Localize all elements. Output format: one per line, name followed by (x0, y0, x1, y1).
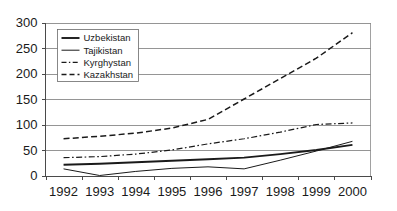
y-tick-marks (42, 24, 46, 177)
x-axis-label: 1996 (194, 184, 223, 199)
legend-label-tajikistan: Tajikistan (84, 45, 123, 56)
x-axis-label: 1998 (266, 184, 295, 199)
y-axis-label: 200 (16, 66, 38, 81)
x-axis-label: 1992 (49, 184, 78, 199)
x-axis-label: 1993 (85, 184, 114, 199)
x-axis-labels: 199219931994199519961997199819992000 (49, 184, 367, 199)
x-axis-label: 1994 (121, 184, 150, 199)
chart-canvas: 050100150200250300 199219931994199519961… (0, 0, 397, 211)
line-chart: 050100150200250300 199219931994199519961… (0, 0, 397, 211)
y-axis-label: 250 (16, 41, 38, 56)
legend-label-kazakhstan: Kazakhstan (84, 69, 134, 80)
series-line-uzbekistan (64, 145, 353, 165)
y-axis-labels: 050100150200250300 (16, 15, 38, 183)
x-axis-label: 1995 (157, 184, 186, 199)
y-axis-label: 0 (30, 168, 37, 183)
legend-label-uzbekistan: Uzbekistan (84, 32, 131, 43)
x-axis-label: 1999 (302, 184, 331, 199)
y-axis-label: 150 (16, 92, 38, 107)
x-axis-label: 2000 (338, 184, 367, 199)
legend-label-kyrghystan: Kyrghystan (84, 57, 132, 68)
y-axis-label: 50 (23, 143, 37, 158)
y-axis-label: 100 (16, 117, 38, 132)
chart-legend: UzbekistanTajikistanKyrghystanKazakhstan (58, 30, 139, 82)
x-axis-label: 1997 (230, 184, 259, 199)
y-axis-label: 300 (16, 15, 38, 30)
